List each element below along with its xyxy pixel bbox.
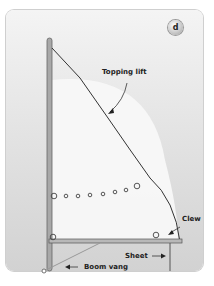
label-boom-vang: Boom vang — [84, 263, 128, 271]
sail-diagram — [0, 0, 214, 286]
label-sheet: Sheet — [125, 252, 148, 260]
label-clew: Clew — [182, 215, 201, 223]
label-topping-lift: Topping lift — [102, 68, 147, 76]
mast — [47, 38, 52, 271]
figure-badge: d — [168, 20, 183, 35]
boom — [49, 239, 182, 243]
mainsail — [51, 79, 178, 240]
